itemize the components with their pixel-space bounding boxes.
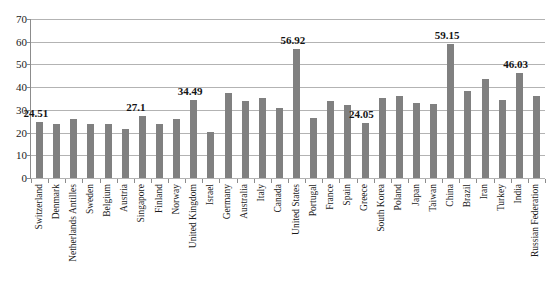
y-axis-tick-mark: [27, 19, 31, 20]
x-axis-tick-mark: [442, 179, 443, 183]
bar[interactable]: [70, 119, 77, 178]
bar[interactable]: [516, 73, 523, 178]
x-axis-category-label: Netherlands Antilles: [69, 184, 79, 262]
bar[interactable]: [173, 119, 180, 178]
x-axis-tick-mark: [357, 179, 358, 183]
x-axis-category-label: Brazil: [463, 184, 473, 207]
x-axis-category-label: Switzerland: [35, 184, 45, 229]
bar-value-label: 46.03: [503, 59, 528, 70]
x-axis-category-label: Spain: [343, 184, 353, 206]
x-axis-tick-mark: [254, 179, 255, 183]
bar[interactable]: [482, 79, 489, 178]
bar[interactable]: [156, 124, 163, 178]
x-axis-tick-mark: [82, 179, 83, 183]
bar[interactable]: [413, 103, 420, 178]
y-axis-tick-mark: [27, 155, 31, 156]
x-axis-tick-mark: [374, 179, 375, 183]
y-axis-tick-mark: [27, 133, 31, 134]
x-axis-tick-mark: [100, 179, 101, 183]
bar-value-label: 24.05: [349, 109, 374, 120]
x-axis-tick-mark: [48, 179, 49, 183]
x-axis-category-label: Turkey: [497, 184, 507, 211]
bar[interactable]: [225, 93, 232, 178]
bar[interactable]: [190, 100, 197, 178]
x-axis-category-label: Denmark: [52, 184, 62, 219]
x-axis-category-label: India: [514, 184, 524, 204]
bar[interactable]: [276, 108, 283, 178]
gridline: [31, 64, 545, 65]
bar-value-label: 59.15: [435, 30, 460, 41]
chart-title: [0, 0, 551, 3]
x-axis-tick-mark: [185, 179, 186, 183]
x-axis-tick-mark: [476, 179, 477, 183]
x-axis-tick-mark: [408, 179, 409, 183]
y-axis-tick-mark: [27, 42, 31, 43]
x-axis-category-label: Germany: [223, 184, 233, 219]
x-axis-tick-mark: [134, 179, 135, 183]
x-axis-category-label: China: [446, 184, 456, 207]
y-axis-tick-mark: [27, 87, 31, 88]
x-axis-tick-mark: [305, 179, 306, 183]
y-axis-tick-labels: 010203040506070: [0, 0, 27, 286]
x-axis-category-label: Sweden: [86, 184, 96, 214]
bar[interactable]: [36, 122, 43, 178]
y-axis-tick-label: 0: [3, 173, 27, 184]
x-axis-category-label: Portugal: [309, 184, 319, 216]
x-axis-tick-mark: [528, 179, 529, 183]
x-axis-category-label: Greece: [360, 184, 370, 211]
x-axis-tick-mark: [168, 179, 169, 183]
bar[interactable]: [396, 96, 403, 178]
gridline: [31, 87, 545, 88]
x-axis-category-label: Japan: [412, 184, 422, 206]
y-axis-tick-label: 50: [3, 59, 27, 70]
bar[interactable]: [533, 96, 540, 178]
bar[interactable]: [447, 44, 454, 178]
x-axis-tick-mark: [31, 179, 32, 183]
y-axis-tick-label: 40: [3, 82, 27, 93]
x-axis-category-label: Canada: [274, 184, 284, 213]
bar-value-label: 34.49: [178, 86, 203, 97]
bar[interactable]: [327, 101, 334, 178]
x-axis-tick-mark: [322, 179, 323, 183]
bar[interactable]: [430, 104, 437, 178]
gridline: [31, 19, 545, 20]
bar[interactable]: [499, 100, 506, 178]
bar[interactable]: [362, 123, 369, 178]
bar[interactable]: [259, 98, 266, 178]
y-axis-tick-mark: [27, 110, 31, 111]
x-axis-tick-mark: [202, 179, 203, 183]
x-axis-category-label: Finland: [155, 184, 165, 213]
x-axis-category-label: Singapore: [137, 184, 147, 223]
x-axis-tick-mark: [339, 179, 340, 183]
x-axis-tick-mark: [511, 179, 512, 183]
x-axis-tick-mark: [545, 179, 546, 183]
x-axis-tick-mark: [459, 179, 460, 183]
bar[interactable]: [379, 98, 386, 178]
bar[interactable]: [293, 49, 300, 178]
y-axis-tick-label: 70: [3, 14, 27, 25]
x-axis-tick-mark: [494, 179, 495, 183]
y-axis-tick-label: 20: [3, 127, 27, 138]
x-axis-category-label: South Korea: [377, 184, 387, 232]
bar[interactable]: [122, 129, 129, 178]
bar[interactable]: [139, 116, 146, 178]
bar[interactable]: [105, 124, 112, 178]
bar[interactable]: [310, 118, 317, 178]
x-axis-tick-mark: [391, 179, 392, 183]
bar[interactable]: [242, 101, 249, 178]
x-axis-category-label: Iran: [480, 184, 490, 199]
y-axis-tick-mark: [27, 64, 31, 65]
x-axis-category-label: Norway: [172, 184, 182, 215]
bar-value-label: 56.92: [281, 35, 306, 46]
bar[interactable]: [87, 124, 94, 178]
bar[interactable]: [464, 91, 471, 178]
x-axis-category-label: Belgium: [103, 184, 113, 217]
x-axis-tick-mark: [288, 179, 289, 183]
x-axis-category-label: Australia: [240, 184, 250, 219]
bar[interactable]: [207, 132, 214, 178]
x-axis-category-label: Taiwan: [429, 184, 439, 212]
bar[interactable]: [53, 124, 60, 179]
x-axis-category-label: Poland: [394, 184, 404, 210]
y-axis-tick-label: 60: [3, 36, 27, 47]
x-axis-category-label: Israel: [206, 184, 216, 205]
